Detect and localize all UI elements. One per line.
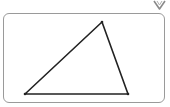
vertex-a bbox=[24, 93, 27, 96]
triangle-figure bbox=[0, 0, 170, 107]
vertex-b bbox=[101, 21, 104, 24]
vertex-c bbox=[127, 93, 130, 96]
diagram-canvas bbox=[0, 0, 170, 107]
triangle bbox=[25, 22, 128, 94]
